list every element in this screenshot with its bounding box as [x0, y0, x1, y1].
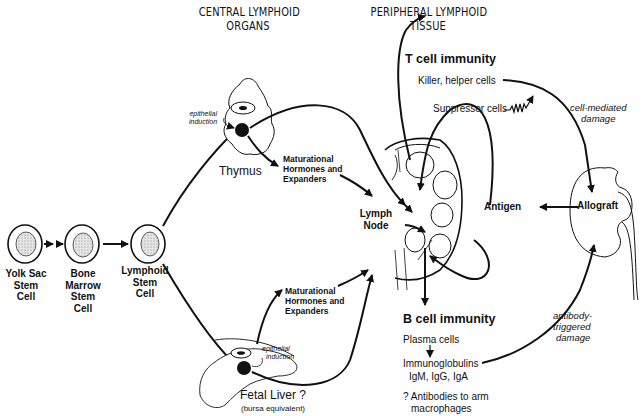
label-line: ? Antibodies to arm — [403, 391, 489, 403]
thymus-label: Thymus — [219, 165, 262, 179]
label-line: Lymphoid — [120, 265, 170, 277]
label-line: Stem — [2, 280, 50, 292]
label-line: Expanders — [283, 175, 343, 185]
label-line: macrophages — [403, 403, 489, 415]
label-line: Cell — [60, 303, 106, 315]
killer-helper-cells-label: Killer, helper cells — [418, 75, 496, 87]
label-line: Marrow — [60, 280, 106, 292]
label-line: Stem — [120, 277, 170, 289]
fetal-liver-epithelial-induction-label: epithelial induction — [262, 345, 294, 361]
t-cell-immunity-title: T cell immunity — [405, 52, 496, 66]
lymphoid-stem-cell-icon — [131, 225, 165, 263]
label-line: induction — [262, 353, 294, 361]
peripheral-lymphoid-header: PERIPHERAL LYMPHOID TISSUE — [371, 6, 486, 34]
cell-mediated-damage-label: cell-mediated damage — [570, 103, 627, 125]
label-line: damage — [553, 333, 592, 344]
thymus-maturational-label: Maturational Hormones and Expanders — [283, 155, 343, 184]
label-line: epithelial — [262, 345, 294, 353]
immunoglobulins-label: Immunoglobulins — [403, 358, 479, 370]
label-line: Cell — [120, 288, 170, 300]
label-line: Yolk Sac — [2, 268, 50, 280]
header-line: ORGANS — [199, 20, 297, 34]
header-line: CENTRAL LYMPHOID — [199, 6, 297, 20]
label-line: Lymph — [356, 208, 396, 220]
label-line: epithelial — [183, 110, 217, 118]
label-line: induction — [183, 118, 217, 126]
label-line: damage — [570, 114, 627, 125]
label-line: Cell — [2, 291, 50, 303]
suppressor-cells-label: Suppressor cells — [433, 103, 507, 115]
label-line: Expanders — [285, 307, 345, 317]
suppressor-squiggle-icon — [504, 96, 533, 112]
yolk-sac-stem-cell-label: Yolk Sac Stem Cell — [2, 268, 50, 303]
antibodies-to-arm-macrophages-label: ? Antibodies to arm macrophages — [403, 391, 489, 414]
bone-marrow-stem-cell-icon — [65, 225, 99, 263]
diagram-drawing — [0, 0, 642, 416]
fetal-liver-label: Fetal Liver ? — [240, 389, 306, 403]
plasma-cells-label: Plasma cells — [403, 334, 459, 346]
thymus-icon — [224, 78, 275, 154]
bursa-equivalent-label: (bursa equivalent) — [241, 404, 305, 413]
antigen-label: Antigen — [484, 201, 521, 213]
bone-marrow-stem-cell-label: Bone Marrow Stem Cell — [60, 268, 106, 314]
allograft-kidney-icon — [570, 168, 638, 300]
thymus-epithelial-induction-label: epithelial induction — [183, 110, 217, 126]
fetal-liver-maturational-label: Maturational Hormones and Expanders — [285, 287, 345, 316]
immunoglobulin-classes-label: IgM, IgG, IgA — [409, 371, 468, 383]
label-line: Bone — [60, 268, 106, 280]
yolk-sac-stem-cell-icon — [8, 225, 42, 263]
header-line: PERIPHERAL LYMPHOID — [371, 6, 486, 20]
central-lymphoid-header: CENTRAL LYMPHOID ORGANS — [199, 6, 297, 34]
label-line: Stem — [60, 291, 106, 303]
b-cell-immunity-title: B cell immunity — [403, 312, 495, 326]
antibody-triggered-damage-label: antibody- triggered damage — [553, 311, 592, 344]
lymphoid-stem-cell-label: Lymphoid Stem Cell — [120, 265, 170, 300]
lymph-node-label: Lymph Node — [356, 208, 396, 231]
label-line: Node — [356, 220, 396, 232]
header-line: TISSUE — [371, 20, 486, 34]
allograft-label: Allograft — [577, 200, 618, 212]
